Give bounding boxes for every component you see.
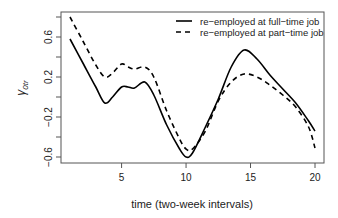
legend: re−employed at full−time jobre−employed … <box>176 16 324 38</box>
y-axis-label-sub: 0tr <box>21 80 30 90</box>
x-tick-label: 10 <box>180 172 192 183</box>
line-chart: 0.60.2−0.2−0.6 5101520 re−employed at fu… <box>0 0 338 218</box>
x-tick-label: 5 <box>119 172 125 183</box>
y-axis: 0.60.2−0.2−0.6 <box>43 17 61 167</box>
legend-label: re−employed at full−time job <box>200 16 319 27</box>
x-tick-label: 15 <box>245 172 257 183</box>
series-lines <box>70 17 315 157</box>
y-tick-label: −0.2 <box>43 107 54 127</box>
y-axis-label: γ0tr <box>14 80 30 96</box>
y-tick-label: 0.6 <box>43 30 54 44</box>
x-tick-label: 20 <box>309 172 321 183</box>
y-tick-label: 0.2 <box>43 70 54 84</box>
chart-canvas: 0.60.2−0.2−0.6 5101520 re−employed at fu… <box>0 0 338 218</box>
y-tick-label: −0.6 <box>43 147 54 167</box>
x-axis-label: time (two-week intervals) <box>131 198 253 210</box>
series-full-time-line <box>70 39 315 157</box>
legend-label: re−employed at part−time job <box>200 27 324 38</box>
x-axis: 5101520 <box>119 163 321 183</box>
